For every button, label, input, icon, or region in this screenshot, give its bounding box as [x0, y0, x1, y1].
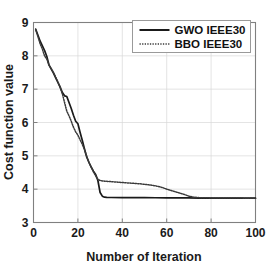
x-tick-label: 20: [71, 226, 85, 240]
x-tick-label: 40: [116, 226, 130, 240]
figure-container: 0204060801003456789 GWO IEEE30BBO IEEE30…: [0, 0, 276, 268]
x-axis-label: Number of Iteration: [86, 250, 201, 264]
y-tick-label: 6: [22, 116, 29, 130]
y-tick-label: 7: [22, 82, 29, 96]
legend-label-1: GWO IEEE30: [175, 24, 246, 36]
chart-legend: GWO IEEE30BBO IEEE30: [133, 21, 251, 53]
legend-label-2: BBO IEEE30: [175, 38, 243, 50]
y-axis-label: Cost function value: [2, 64, 16, 180]
y-tick-label: 4: [22, 182, 29, 196]
x-tick-label: 80: [204, 226, 218, 240]
line-chart: 0204060801003456789 GWO IEEE30BBO IEEE30…: [0, 0, 276, 268]
x-tick-label: 100: [245, 226, 265, 240]
y-tick-label: 9: [22, 16, 29, 30]
x-tick-label: 60: [160, 226, 174, 240]
y-tick-label: 8: [22, 49, 29, 63]
y-tick-label: 3: [22, 216, 29, 230]
y-tick-label: 5: [22, 149, 29, 163]
x-tick-label: 0: [30, 226, 37, 240]
